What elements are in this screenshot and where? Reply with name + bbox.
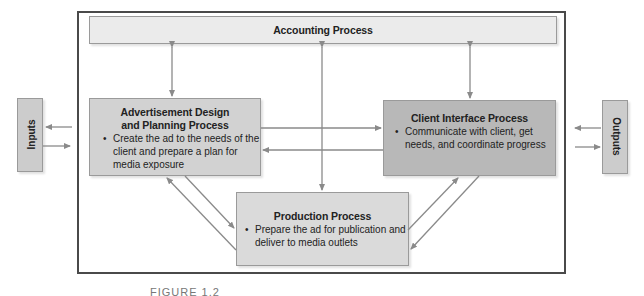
- connector-arrows: [0, 0, 644, 296]
- figure-caption: FIGURE 1.2: [150, 286, 220, 296]
- arrow-advertisement-to-production: [185, 176, 234, 228]
- arrow-production-to-client: [408, 178, 458, 230]
- arrow-production-to-advertisement: [167, 178, 236, 250]
- arrow-client-to-production: [411, 176, 479, 249]
